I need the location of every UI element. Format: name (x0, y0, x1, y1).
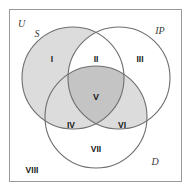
region-label-VI: VI (118, 120, 126, 130)
region-label-V: V (93, 92, 99, 102)
venn-diagram-figure: U S IP D I II III IV V VI VII VIII (0, 0, 191, 192)
set-label-U: U (18, 18, 26, 29)
region-label-IV: IV (67, 120, 75, 130)
venn-diagram-canvas: U S IP D I II III IV V VI VII VIII (0, 0, 191, 192)
set-label-S: S (35, 28, 40, 39)
set-label-IP: IP (154, 25, 164, 36)
region-label-VII: VII (91, 144, 101, 154)
region-label-II: II (94, 54, 99, 64)
region-label-III: III (136, 54, 143, 64)
set-label-D: D (150, 156, 159, 167)
region-label-VIII: VIII (26, 165, 39, 175)
region-label-I: I (51, 54, 53, 64)
